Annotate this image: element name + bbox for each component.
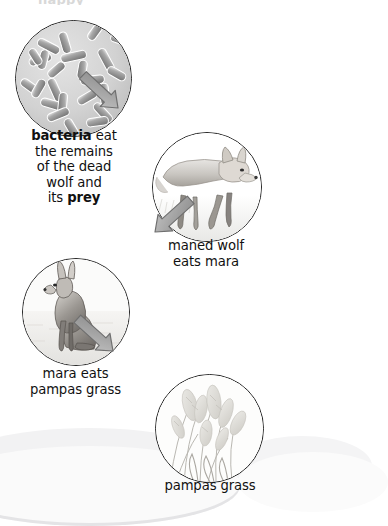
- bacteria-caption: bacteria eat the remains of the dead wol…: [8, 128, 140, 206]
- pampas-grass-icon: [156, 375, 263, 482]
- pampas-grass-caption-line1: pampas grass: [164, 478, 255, 493]
- mara-circle[interactable]: [22, 258, 130, 366]
- pampas-grass-caption: pampas grass: [132, 478, 288, 494]
- pampas-grass-circle[interactable]: [155, 374, 264, 483]
- bacteria-caption-word-prey: prey: [67, 190, 100, 205]
- bacteria-circle[interactable]: [15, 20, 132, 137]
- bacteria-caption-line3: of the dead: [37, 159, 112, 174]
- bacteria-rods-icon: [16, 21, 131, 136]
- maned-wolf-caption-line1: maned wolf: [168, 238, 244, 253]
- maned-wolf-icon: [153, 133, 261, 241]
- bacteria-caption-word-bacteria: bacteria: [31, 128, 92, 143]
- cropped-heading-remnant: happy: [38, 0, 158, 5]
- mara-caption-line1: mara eats: [43, 366, 109, 381]
- bacteria-caption-line4: wolf and: [46, 175, 101, 190]
- maned-wolf-circle[interactable]: [152, 132, 262, 242]
- bacteria-caption-its: its: [48, 190, 68, 205]
- maned-wolf-caption-line2: eats mara: [173, 254, 239, 269]
- mara-caption: mara eats pampas grass: [8, 366, 143, 397]
- mara-icon: [23, 259, 129, 365]
- bacteria-caption-line2: the remains: [35, 144, 113, 159]
- maned-wolf-caption: maned wolf eats mara: [141, 238, 271, 269]
- mara-caption-line2: pampas grass: [30, 382, 121, 397]
- bacteria-caption-word-eat: eat: [92, 128, 117, 143]
